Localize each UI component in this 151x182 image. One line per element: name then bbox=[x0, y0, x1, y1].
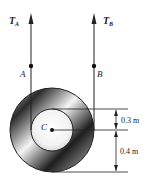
force-label-ta: TA bbox=[9, 15, 19, 27]
point-label-a: A bbox=[19, 69, 26, 79]
dimension-label-0-4: 0.4 m bbox=[120, 147, 139, 156]
arrowhead-up-icon bbox=[114, 131, 118, 137]
force-label-tb: TB bbox=[103, 15, 113, 27]
arrowhead-down-icon bbox=[114, 123, 118, 129]
arrowhead-up-icon bbox=[114, 110, 118, 116]
pulley-diagram: TA TB A B C 0.3 m 0.4 m bbox=[0, 0, 151, 182]
point-b-dot bbox=[92, 64, 96, 68]
arrow-up-icon bbox=[29, 13, 34, 24]
dimension-label-0-3: 0.3 m bbox=[121, 116, 140, 125]
arrowhead-down-icon bbox=[114, 165, 118, 171]
center-label-c: C bbox=[41, 122, 48, 132]
point-a-dot bbox=[29, 64, 33, 68]
point-label-b: B bbox=[97, 69, 103, 79]
arrow-up-icon bbox=[92, 13, 97, 24]
